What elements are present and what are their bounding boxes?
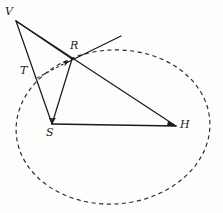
- figure-canvas: [0, 0, 223, 213]
- segment-r-s: [52, 59, 72, 124]
- vertex-label-h: H: [180, 119, 190, 130]
- arrowhead-at-s: [49, 118, 56, 124]
- vertex-label-r: R: [70, 40, 78, 51]
- dashed-arrow-to-r: [37, 61, 69, 78]
- geometry-figure: V T R S H: [0, 0, 223, 213]
- vertex-label-v: V: [5, 6, 13, 17]
- arrowhead-at-h: [167, 121, 176, 126]
- segment-v-r: [16, 21, 72, 59]
- vertex-label-t: T: [20, 65, 27, 76]
- segment-s-h: [52, 124, 176, 126]
- vertex-label-s: S: [46, 127, 54, 138]
